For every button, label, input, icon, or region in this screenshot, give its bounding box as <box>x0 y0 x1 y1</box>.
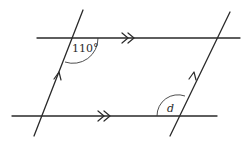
single-arrow-icon-right <box>189 72 196 80</box>
right-transversal-line <box>170 12 230 136</box>
angle-label-110: 110° <box>72 42 99 55</box>
angle-label-d: d <box>167 102 174 115</box>
geometry-diagram: 110° d <box>0 0 249 148</box>
